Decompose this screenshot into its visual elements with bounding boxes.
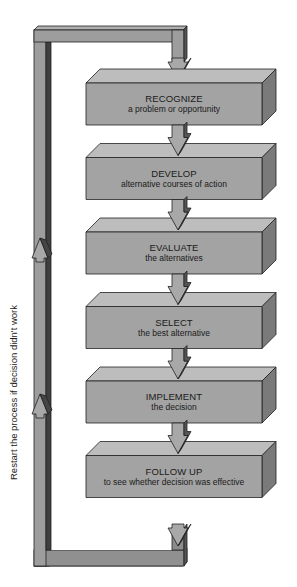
box-top-face (86, 69, 276, 83)
box-front-face (86, 158, 262, 200)
box-front-face (86, 83, 262, 125)
decision-process-diagram (0, 0, 297, 587)
feedback-loop-label: Restart the process if decision didn't w… (8, 180, 19, 480)
step-box-1 (86, 69, 276, 125)
box-front-face (86, 381, 262, 423)
box-front-face (86, 307, 262, 349)
box-front-face (86, 232, 262, 274)
box-front-face (86, 456, 262, 498)
